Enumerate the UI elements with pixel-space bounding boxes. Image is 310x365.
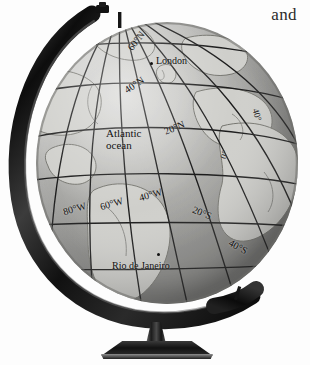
city-label-rio-de-janeiro: Rio de Janeiro bbox=[112, 261, 170, 272]
ocean-label-atlantic: Atlantic ocean bbox=[106, 128, 141, 152]
globe-illustration: and bbox=[0, 0, 310, 365]
city-marker-rio-de-janeiro bbox=[157, 253, 160, 256]
ocean-label-line2: ocean bbox=[106, 140, 141, 152]
city-marker-london bbox=[150, 62, 153, 65]
globe-stand-base-rim bbox=[101, 354, 213, 359]
city-label-london: London bbox=[156, 56, 187, 67]
longitude-label-40e: 40° bbox=[250, 107, 263, 122]
